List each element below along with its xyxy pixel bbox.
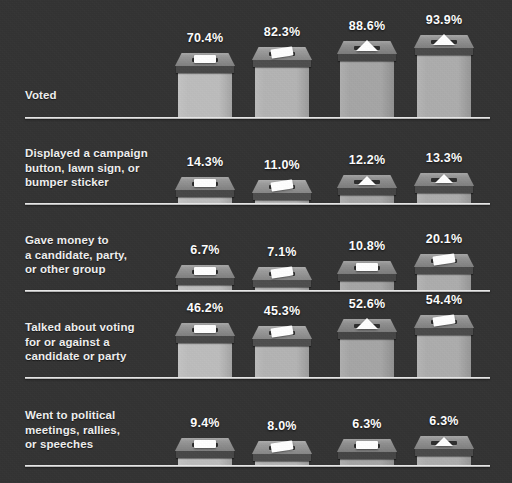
ballot-box-voted-col1: 70.4% (175, 31, 235, 117)
row-label-campaign-display: Displayed a campaignbutton, lawn sign, o… (25, 146, 170, 190)
ballot-box-rim (415, 48, 473, 55)
row-label-line: meetings, rallies, (25, 423, 170, 438)
ballot-box-body (340, 459, 394, 465)
bar-value-label: 13.3% (426, 151, 462, 165)
ballot-box-rim (253, 339, 311, 346)
ballot-box-body (178, 458, 232, 465)
row-label-talked-about-voting: Talked about votingfor or against acandi… (25, 320, 170, 364)
ballot-box-graphic (252, 180, 312, 203)
ballot-box-body (417, 456, 471, 465)
ballot-box-graphic (175, 265, 235, 290)
ballot-box-graphic (337, 439, 397, 465)
bar-value-label: 46.2% (187, 301, 223, 315)
ballot-box-body (178, 343, 232, 377)
ballot-box-graphic (252, 326, 312, 377)
row-label-voted: Voted (25, 88, 170, 103)
ballot-box-gave-money-col3: 10.8% (337, 239, 397, 290)
row-baseline-talked-about-voting (25, 377, 490, 379)
ballot-box-campaign-display-col1: 14.3% (175, 155, 235, 203)
ballot-box-graphic (175, 53, 235, 117)
bar-value-label: 45.3% (264, 304, 300, 318)
ballot-box-rim (415, 186, 473, 193)
ballot-box-rim (176, 451, 234, 458)
ballot-box-rim (415, 449, 473, 456)
ballot-box-body (178, 285, 232, 290)
ballot-box-political-meetings-col2: 8.0% (252, 419, 312, 465)
bar-value-label: 6.3% (429, 414, 458, 428)
ballot-paper-flat-slip (356, 263, 378, 271)
ballot-paper-flat-slip (194, 179, 216, 187)
ballot-box-graphic (414, 254, 474, 290)
ballot-paper-triangle (435, 437, 453, 446)
bar-value-label: 7.1% (267, 245, 296, 259)
ballot-box-graphic (175, 177, 235, 203)
row-label-gave-money: Gave money toa candidate, party,or other… (25, 233, 170, 277)
ballot-box-rim (253, 280, 311, 287)
ballot-box-graphic (252, 267, 312, 290)
row-label-line: a candidate, party, (25, 248, 170, 263)
ballot-box-graphic (252, 441, 312, 465)
ballot-box-talked-about-voting-col1: 46.2% (175, 301, 235, 377)
bar-value-label: 54.4% (426, 293, 462, 307)
ballot-box-rim (253, 60, 311, 67)
ballot-box-body (417, 335, 471, 377)
ballot-box-body (178, 197, 232, 203)
ballot-box-political-meetings-col4: 6.3% (414, 414, 474, 465)
ballot-box-rim (176, 66, 234, 73)
bar-value-label: 82.3% (264, 25, 300, 39)
bar-value-label: 6.3% (352, 417, 381, 431)
ballot-box-body (340, 195, 394, 203)
row-label-line: or other group (25, 262, 170, 277)
ballot-box-body (255, 67, 309, 117)
ballot-box-graphic (175, 438, 235, 465)
ballot-box-rim (176, 278, 234, 285)
ballot-box-graphic (414, 436, 474, 465)
ballot-paper-flat-slip (194, 325, 216, 333)
ballot-box-graphic (337, 41, 397, 117)
ballot-box-rim (176, 336, 234, 343)
ballot-box-body (340, 339, 394, 377)
row-label-line: Voted (25, 88, 170, 103)
ballot-box-body (255, 287, 309, 290)
ballot-box-voted-col4: 93.9% (414, 13, 474, 117)
ballot-box-talked-about-voting-col3: 52.6% (337, 297, 397, 377)
ballot-box-gave-money-col4: 20.1% (414, 232, 474, 290)
ballot-paper-triangle (356, 40, 378, 51)
ballot-box-rim (415, 328, 473, 335)
ballot-box-body (178, 73, 232, 117)
ballot-box-graphic (414, 173, 474, 203)
ballot-box-gave-money-col1: 6.7% (175, 243, 235, 290)
ballot-box-body (417, 274, 471, 290)
row-label-political-meetings: Went to politicalmeetings, rallies,or sp… (25, 408, 170, 452)
ballot-box-body (255, 461, 309, 465)
ballot-box-gave-money-col2: 7.1% (252, 245, 312, 290)
ballot-paper-triangle (356, 318, 378, 329)
ballot-box-graphic (414, 35, 474, 117)
ballot-box-graphic (337, 319, 397, 377)
ballot-box-campaign-display-col2: 11.0% (252, 158, 312, 203)
bar-value-label: 11.0% (264, 158, 300, 172)
row-label-line: bumper sticker (25, 175, 170, 190)
ballot-paper-triangle (433, 34, 455, 45)
ballot-box-voted-col3: 88.6% (337, 19, 397, 117)
ballot-box-voted-col2: 82.3% (252, 25, 312, 117)
ballot-box-rim (176, 190, 234, 197)
row-baseline-gave-money (25, 290, 490, 292)
ballot-box-body (417, 193, 471, 203)
ballot-box-rim (338, 54, 396, 61)
bar-value-label: 8.0% (267, 419, 296, 433)
ballot-paper-triangle (358, 176, 376, 185)
ballot-box-rim (338, 188, 396, 195)
ballot-paper-flat-slip (194, 55, 216, 63)
ballot-box-talked-about-voting-col4: 54.4% (414, 293, 474, 377)
row-baseline-political-meetings (25, 465, 490, 467)
ballot-box-graphic (414, 315, 474, 377)
row-label-line: Displayed a campaign (25, 146, 170, 161)
ballot-box-graphic (252, 47, 312, 117)
bar-value-label: 14.3% (187, 155, 223, 169)
ballot-box-rim (338, 274, 396, 281)
row-label-line: Gave money to (25, 233, 170, 248)
row-label-line: for or against a (25, 335, 170, 350)
ballot-paper-triangle (435, 174, 453, 183)
ballot-box-graphic (337, 175, 397, 203)
